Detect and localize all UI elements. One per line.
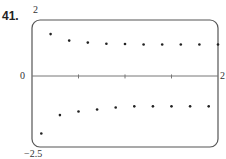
data-point [105, 42, 108, 45]
data-point [87, 41, 90, 44]
data-point [170, 105, 173, 108]
data-point [217, 43, 220, 46]
data-point [114, 106, 117, 109]
data-point [68, 39, 71, 42]
data-point [133, 105, 136, 108]
plot-frame [32, 20, 218, 147]
data-point [189, 105, 192, 108]
data-point [152, 105, 155, 108]
data-point [40, 132, 43, 135]
data-point [96, 108, 99, 111]
scatter-plot [0, 0, 226, 159]
data-point [59, 114, 62, 117]
data-point [124, 43, 127, 46]
data-point [161, 43, 164, 46]
data-point [207, 105, 210, 108]
data-point [180, 43, 183, 46]
data-point [77, 110, 80, 113]
data-point [49, 33, 52, 36]
data-points [40, 33, 219, 135]
data-point [198, 43, 201, 46]
data-point [142, 43, 145, 46]
